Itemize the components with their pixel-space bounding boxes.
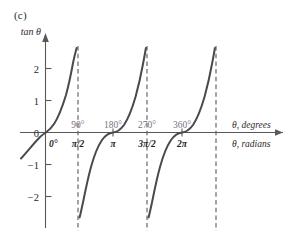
x-label-3pi-over-2: 3π/2: [137, 139, 156, 149]
tangent-function-plot: 2 1 0 −1 −2 90° 180° 270° 360° 0° π/2 π …: [0, 0, 297, 237]
y-axis-arrowhead: [42, 33, 49, 42]
x-label-0deg: 0°: [49, 139, 58, 149]
y-tick-label-1: 1: [34, 96, 39, 107]
x-axis-title-degrees: θ, degrees: [232, 120, 271, 130]
x-label-90deg: 90°: [71, 120, 85, 130]
figure-container: (c): [0, 0, 297, 237]
x-degree-labels: 90° 180° 270° 360°: [71, 120, 191, 130]
x-label-270deg: 270°: [138, 120, 156, 130]
axes-group: [20, 33, 283, 228]
x-label-2pi: 2π: [176, 139, 188, 149]
y-tick-label-neg1: −1: [28, 160, 39, 171]
x-label-180deg: 180°: [104, 120, 122, 130]
y-axis-title: tan θ: [21, 26, 41, 37]
x-label-pi-over-2: π/2: [72, 139, 85, 149]
x-label-pi: π: [110, 139, 116, 149]
x-label-360deg: 360°: [173, 120, 191, 130]
x-axis-arrowhead: [275, 129, 283, 136]
x-axis-title-radians: θ, radians: [232, 139, 271, 149]
y-tick-label-2: 2: [34, 64, 39, 75]
axis-titles: tan θ θ, degrees θ, radians: [21, 26, 271, 149]
y-tick-label-0: 0: [34, 128, 39, 139]
y-tick-label-neg2: −2: [28, 192, 39, 203]
